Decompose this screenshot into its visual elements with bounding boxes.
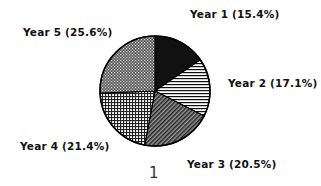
label-year-1: Year 1 (15.4%) (190, 8, 279, 20)
label-year-5: Year 5 (25.6%) (23, 26, 112, 38)
pie-slices (100, 36, 210, 146)
pie-slice-year-5 (100, 36, 155, 93)
page-number: 1 (149, 164, 159, 182)
label-year-3: Year 3 (20.5%) (187, 158, 276, 170)
label-year-4: Year 4 (21.4%) (20, 140, 109, 152)
label-year-2: Year 2 (17.1%) (228, 77, 317, 89)
pie-slice-year-4 (100, 91, 155, 145)
